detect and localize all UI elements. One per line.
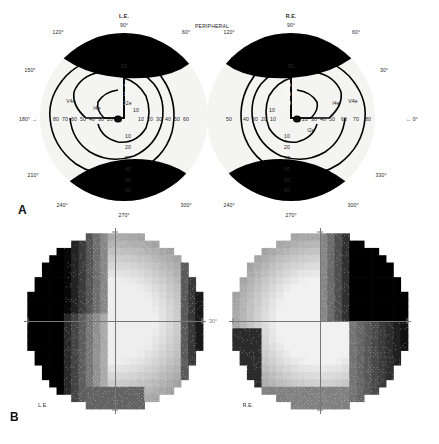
- left-meridian-210: 210°: [27, 172, 38, 178]
- left-vtick-up-40: 40: [124, 82, 130, 88]
- visual-field-figure: L.E. 90° 120° 150° 210° 240° 270° 300° 6…: [0, 0, 439, 444]
- right-tick-in-10: 10: [293, 116, 299, 122]
- right-tick-in-80: 80: [365, 116, 371, 122]
- right-tick-in-60: 60: [341, 116, 347, 122]
- right-vtick-up-20: 20: [285, 100, 291, 106]
- right-vtick-dn-60: 60: [284, 187, 290, 193]
- right-vtick-up-40: 40: [285, 82, 291, 88]
- left-tick-in-40: 40: [165, 116, 171, 122]
- left-vtick-up-10: 10: [133, 107, 139, 113]
- right-meridian-240: 240°: [223, 202, 234, 208]
- left-isopter-label-i4e: I4e: [93, 105, 101, 111]
- left-tick-30: 30: [98, 116, 104, 122]
- right-tick-30: 30: [252, 116, 258, 122]
- right-vtick-up-30: 30: [285, 91, 291, 97]
- left-eye-label: L.E.: [119, 13, 129, 19]
- right-tick-in-30: 30: [311, 116, 317, 122]
- left-tick-50: 50: [80, 116, 86, 122]
- left-tick-in-20: 20: [147, 116, 153, 122]
- grayscale-canvas-right: [225, 226, 415, 416]
- right-meridian-30: 30°: [380, 67, 388, 73]
- right-horizontal-arrow: ← 0°: [406, 116, 418, 122]
- right-tick-50: 50: [226, 116, 232, 122]
- right-vtick-up-50: 50: [288, 63, 294, 69]
- left-tick-in-60: 60: [183, 116, 189, 122]
- right-vtick-dn-30: 30: [284, 155, 290, 161]
- left-tick-40: 40: [89, 116, 95, 122]
- right-meridian-300: 300°: [347, 202, 358, 208]
- left-meridian-270: 270°: [118, 212, 129, 218]
- left-tick-80: 80: [53, 116, 59, 122]
- right-isopter-label-i4e: I4e: [332, 100, 340, 106]
- panel-a-goldmann: L.E. 90° 120° 150° 210° 240° 270° 300° 6…: [0, 0, 439, 222]
- right-vtick-dn-20: 20: [284, 144, 290, 150]
- panel-b-axis-degree-label: 30°: [209, 318, 217, 324]
- right-tick-20: 20: [261, 116, 267, 122]
- left-tick-20: 20: [107, 116, 113, 122]
- left-vtick-dn-10: 10: [125, 133, 131, 139]
- left-vtick-up-30: 30: [124, 91, 130, 97]
- right-eye-label: R.E.: [286, 13, 297, 19]
- right-tick-40: 40: [243, 116, 249, 122]
- left-meridian-60: 60°: [182, 29, 190, 35]
- right-tick-in-70: 70: [353, 116, 359, 122]
- grayscale-canvas-left: [20, 226, 210, 416]
- right-eye-apex-degree: 90°: [287, 22, 295, 28]
- left-vtick-up-50: 50: [121, 63, 127, 69]
- left-tick-in-30: 30: [156, 116, 162, 122]
- left-meridian-120: 120°: [52, 29, 63, 35]
- right-vtick-dn-40: 40: [284, 166, 290, 172]
- left-tick-60: 60: [71, 116, 77, 122]
- left-vtick-dn-30: 30: [125, 155, 131, 161]
- panel-letter-b: B: [10, 410, 19, 424]
- right-vtick-dn-10: 10: [284, 133, 290, 139]
- right-meridian-330: 330°: [375, 172, 386, 178]
- panel-b-right-eye-label: R.E.: [243, 402, 254, 408]
- right-isopter-label-v4e: V4e: [348, 98, 358, 104]
- left-tick-10: 10: [116, 116, 122, 122]
- panel-b-left-eye-label: L.E.: [38, 402, 48, 408]
- left-meridian-300: 300°: [180, 202, 191, 208]
- left-tick-in-10: 10: [138, 116, 144, 122]
- right-meridian-60: 60°: [352, 29, 360, 35]
- left-isopter-label-v4e: V4e: [66, 98, 76, 104]
- left-vtick-dn-20: 20: [125, 144, 131, 150]
- grayscale-plot-left-eye: [20, 226, 210, 416]
- right-tick-in-40: 40: [320, 116, 326, 122]
- left-vtick-dn-40: 40: [125, 166, 131, 172]
- right-meridian-270: 270°: [285, 212, 296, 218]
- panel-a-graphic: [0, 0, 439, 222]
- left-eye-apex-degree: 90°: [120, 22, 128, 28]
- right-tick-in-50: 50: [329, 116, 335, 122]
- grayscale-plot-right-eye: [225, 226, 415, 416]
- right-tick-in-20: 20: [302, 116, 308, 122]
- left-tick-70: 70: [62, 116, 68, 122]
- left-horizontal-arrow: 180° →: [19, 116, 37, 122]
- left-meridian-240: 240°: [56, 202, 67, 208]
- left-isopter-label-i2e: I2e: [124, 100, 132, 106]
- left-tick-in-50: 50: [174, 116, 180, 122]
- left-meridian-150: 150°: [24, 67, 35, 73]
- left-vtick-dn-50: 50: [125, 177, 131, 183]
- right-tick-10: 10: [270, 116, 276, 122]
- right-meridian-120: 120°: [223, 29, 234, 35]
- panel-b-grayscale: L.E. R.E. 30° B: [0, 222, 439, 444]
- left-vtick-dn-60: 60: [125, 187, 131, 193]
- right-isopter-label-i2e: I2e: [307, 127, 315, 133]
- panel-letter-a: A: [18, 203, 27, 217]
- right-vtick-up-10: 10: [269, 107, 275, 113]
- right-vtick-dn-50: 50: [284, 177, 290, 183]
